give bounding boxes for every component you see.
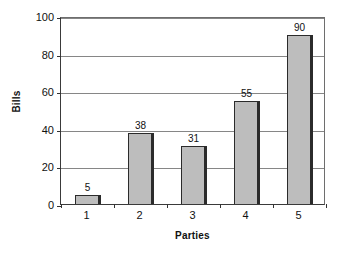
plot-area: 538315590 (60, 17, 325, 205)
x-tick-label: 3 (189, 210, 195, 221)
x-tick-label: 5 (295, 210, 301, 221)
x-tick-mark (220, 204, 221, 208)
y-tick-label: 100 (22, 12, 54, 23)
bar-group[interactable]: 55 (234, 18, 260, 204)
x-tick-label: 4 (242, 210, 248, 221)
bars-layer: 538315590 (61, 18, 324, 204)
bar-value-label: 31 (188, 134, 199, 144)
x-tick-label: 1 (83, 210, 89, 221)
bar-value-label: 38 (135, 121, 146, 131)
bar[interactable] (234, 101, 260, 204)
x-tick-label: 2 (136, 210, 142, 221)
bar-group[interactable]: 5 (75, 18, 101, 204)
y-axis-title: Bills (11, 72, 22, 132)
x-tick-mark (114, 204, 115, 208)
y-tick-label: 20 (22, 162, 54, 173)
bar-value-label: 90 (294, 23, 305, 33)
x-axis-tick-labels: 12345 (60, 210, 325, 226)
bar-group[interactable]: 31 (181, 18, 207, 204)
y-axis-tick-labels: 020406080100 (22, 17, 54, 205)
y-tick-label: 0 (22, 200, 54, 211)
y-tick-mark (57, 56, 61, 57)
bar[interactable] (181, 146, 207, 204)
bar-value-label: 5 (85, 183, 91, 193)
x-tick-mark (273, 204, 274, 208)
y-tick-mark (57, 131, 61, 132)
y-tick-mark (57, 168, 61, 169)
y-tick-mark (57, 93, 61, 94)
y-tick-label: 40 (22, 124, 54, 135)
bar[interactable] (75, 195, 101, 204)
x-axis-title: Parties (60, 230, 325, 241)
bar[interactable] (128, 133, 154, 204)
y-tick-label: 80 (22, 49, 54, 60)
bar[interactable] (287, 35, 313, 204)
bar-value-label: 55 (241, 89, 252, 99)
bar-group[interactable]: 38 (128, 18, 154, 204)
x-tick-mark (326, 204, 327, 208)
y-tick-mark (57, 18, 61, 19)
x-tick-mark (167, 204, 168, 208)
bar-group[interactable]: 90 (287, 18, 313, 204)
y-tick-label: 60 (22, 87, 54, 98)
x-tick-mark (61, 204, 62, 208)
bar-chart: Bills 020406080100 538315590 12345 Parti… (0, 0, 343, 258)
